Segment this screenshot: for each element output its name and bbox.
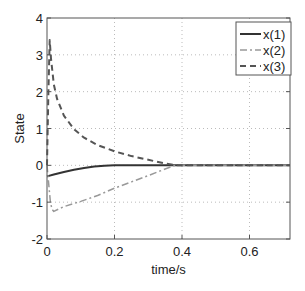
legend-label: x(1) (263, 27, 285, 42)
x-tick-label: 0.2 (105, 244, 123, 259)
x-tick-label: 0.4 (173, 244, 191, 259)
y-tick-label: 3 (36, 48, 43, 63)
legend-label: x(2) (263, 43, 285, 58)
y-tick-label: 1 (36, 122, 43, 137)
y-tick-label: 0 (36, 158, 43, 173)
x-axis-label: time/s (151, 262, 186, 277)
line-chart: 00.20.40.6-2-101234 time/s State x(1)x(2… (0, 0, 305, 291)
y-tick-label: 4 (36, 11, 43, 26)
legend-label: x(3) (263, 59, 285, 74)
y-axis-label: State (12, 113, 27, 143)
y-tick-label: -2 (31, 232, 43, 247)
y-tick-label: -1 (31, 195, 43, 210)
y-tick-label: 2 (36, 85, 43, 100)
x-tick-label: 0.6 (240, 244, 258, 259)
series-x1 (47, 165, 290, 176)
legend: x(1)x(2)x(3) (236, 22, 291, 75)
x-tick-label: 0 (43, 244, 50, 259)
series-x2 (47, 165, 290, 211)
